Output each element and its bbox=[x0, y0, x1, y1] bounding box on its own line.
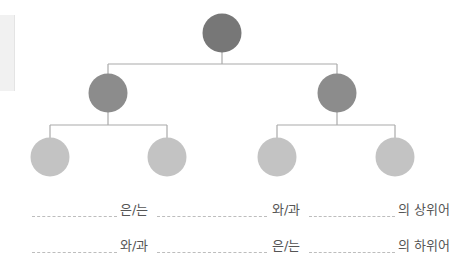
sentence-row-1: 은/는 와/과 의 상위어 bbox=[0, 200, 436, 220]
left-leaf-2-node bbox=[148, 138, 187, 177]
ending-label: 의 하위어 bbox=[398, 238, 450, 254]
particle-label: 와/과 bbox=[120, 238, 148, 254]
hierarchy-tree bbox=[0, 0, 436, 190]
blank-field[interactable] bbox=[157, 252, 267, 253]
blank-field[interactable] bbox=[309, 216, 395, 217]
right-leaf-2-node bbox=[376, 138, 415, 177]
blank-field[interactable] bbox=[32, 216, 117, 217]
blank-field[interactable] bbox=[157, 216, 267, 217]
particle-label: 와/과 bbox=[272, 202, 300, 218]
right-leaf-1-node bbox=[258, 138, 297, 177]
root-node bbox=[203, 14, 242, 53]
left-child-node bbox=[89, 74, 128, 113]
ending-label: 의 상위어 bbox=[398, 202, 450, 218]
particle-label: 은/는 bbox=[272, 238, 300, 254]
particle-label: 은/는 bbox=[120, 202, 148, 218]
left-leaf-1-node bbox=[31, 138, 70, 177]
sentence-row-2: 와/과 은/는 의 하위어 bbox=[0, 236, 436, 256]
blank-field[interactable] bbox=[32, 252, 117, 253]
right-child-node bbox=[318, 74, 357, 113]
blank-field[interactable] bbox=[309, 252, 395, 253]
